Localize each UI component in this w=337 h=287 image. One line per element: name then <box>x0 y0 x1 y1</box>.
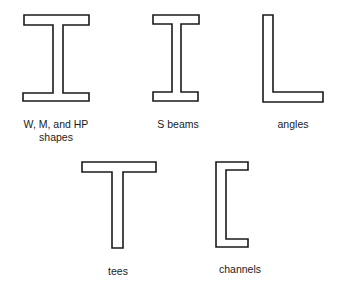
s-beam-profile <box>153 15 199 101</box>
tee-label: tees <box>108 265 128 278</box>
angle-label: angles <box>278 118 309 131</box>
w-shape-label: W, M, and HP shapes <box>24 118 89 144</box>
channel-label: channels <box>219 263 261 276</box>
s-beam-label-line-1: S beams <box>157 118 198 131</box>
tee-label-line-1: tees <box>108 265 128 278</box>
tee-profile <box>82 162 156 248</box>
channel-label-line-1: channels <box>219 263 261 276</box>
channel-profile <box>216 162 248 247</box>
s-beam-label: S beams <box>157 118 198 131</box>
w-shape-profile <box>23 15 89 101</box>
w-shape-label-line-1: W, M, and HP <box>24 118 89 131</box>
angle-profile <box>263 15 323 102</box>
angle-label-line-1: angles <box>278 118 309 131</box>
w-shape-label-line-2: shapes <box>24 131 89 144</box>
